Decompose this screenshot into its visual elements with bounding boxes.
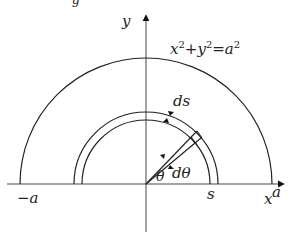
polar-strip-diagram: g y x2+y2=a2 ds θ dθ −a s x a — [0, 0, 290, 250]
svg-text:x2+y2=a2: x2+y2=a2 — [170, 39, 240, 58]
title-fragment: g — [72, 0, 80, 7]
dtheta-label: dθ — [172, 164, 191, 182]
theta-label: θ — [156, 168, 165, 184]
circle-equation: x2+y2=a2 — [170, 39, 240, 58]
y-axis-label: y — [121, 12, 131, 30]
s-label: s — [207, 185, 215, 203]
neg-a-label: −a — [17, 189, 39, 207]
ds-label: ds — [173, 92, 191, 110]
dtheta-arrow-upper — [160, 154, 165, 159]
pos-a-label: a — [272, 183, 281, 201]
